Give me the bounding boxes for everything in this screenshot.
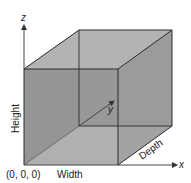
y-axis-label: y	[107, 104, 114, 115]
front-face	[24, 69, 118, 165]
cube-diagram: z x y (0, 0, 0) Width Height Depth	[0, 0, 191, 183]
height-label: Height	[10, 104, 21, 133]
x-axis-label: x	[178, 159, 185, 170]
width-label: Width	[57, 169, 83, 180]
origin-label: (0, 0, 0)	[6, 169, 40, 180]
z-axis-label: z	[20, 12, 26, 23]
